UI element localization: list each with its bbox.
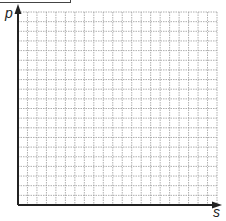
graph-grid <box>0 0 226 221</box>
x-axis-label: s <box>213 205 220 219</box>
y-axis-label: p <box>5 6 13 20</box>
y-axis-arrow-icon <box>15 4 22 14</box>
grid-lines <box>18 12 217 205</box>
